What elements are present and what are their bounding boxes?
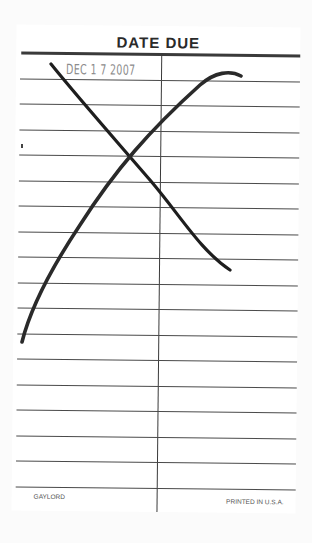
date-due-card: DATE DUE DEC 1 7 2007 GAYLORD PRINTED IN…	[11, 25, 300, 514]
ink-speck	[21, 144, 23, 148]
card-title: DATE DUE	[16, 33, 300, 53]
printed-label: PRINTED IN U.S.A.	[226, 498, 284, 506]
stamped-date: DEC 1 7 2007	[66, 61, 136, 78]
publisher-label: GAYLORD	[34, 493, 65, 500]
